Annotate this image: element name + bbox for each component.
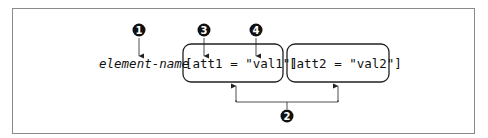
svg-text:1: 1 [136,25,143,36]
element-name-label: element-name [99,57,189,71]
attribute-2-text: [att2 = "val2"] [289,57,402,71]
svg-text:4: 4 [253,25,260,36]
svg-text:3: 3 [201,25,208,36]
callout-3: 3 [198,24,211,37]
attribute-1-text: [att1 = "val1"] [185,57,298,71]
callout-4: 4 [250,24,263,37]
callout-1: 1 [133,24,146,37]
callout-2: 2 [281,110,294,123]
bracket-2 [236,100,338,102]
svg-text:2: 2 [284,111,291,122]
